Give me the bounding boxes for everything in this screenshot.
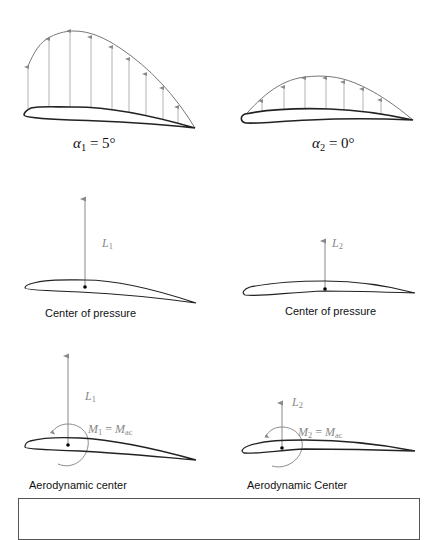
center-of-pressure-2 — [243, 241, 415, 295]
lift-1-label: L1 — [102, 236, 113, 251]
center-of-pressure-2-caption: Center of pressure — [285, 305, 376, 317]
lift-1-ac-label: L1 — [85, 389, 96, 404]
pressure-distribution-2 — [241, 76, 413, 123]
aerodynamic-center-1-caption: Aerodynamic center — [29, 479, 127, 491]
pressure-distribution-1 — [24, 31, 195, 128]
aerodynamic-center-1 — [25, 356, 196, 466]
moment-1-label: M1 = Mac — [88, 422, 132, 437]
lift-2-ac-label: L2 — [292, 395, 303, 410]
lift-2-label: L2 — [332, 236, 343, 251]
moment-2-label: M2 = Mac — [298, 425, 342, 440]
alpha-1-label: α1 = 5° — [73, 135, 116, 153]
caption-box — [18, 498, 420, 540]
center-of-pressure-1-caption: Center of pressure — [45, 307, 136, 319]
alpha-2-label: α2 = 0° — [312, 135, 355, 153]
aerodynamic-center-2-caption: Aerodynamic Center — [247, 479, 347, 491]
